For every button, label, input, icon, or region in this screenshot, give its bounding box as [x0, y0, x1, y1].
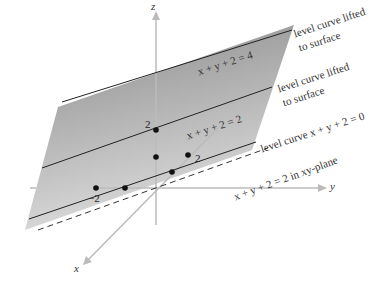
point	[153, 154, 159, 160]
point	[185, 152, 191, 158]
point	[93, 185, 99, 191]
y-tick-neg2: −2	[88, 192, 100, 204]
z-tick-2: 2	[145, 118, 151, 130]
point	[122, 185, 128, 191]
x-axis-label: x	[74, 262, 79, 274]
y-arrow-icon	[318, 184, 327, 192]
z-arrow-icon	[152, 11, 160, 20]
point	[153, 127, 159, 133]
y-axis-label: y	[330, 180, 335, 192]
z-axis-label: z	[151, 0, 155, 12]
tilted-plane	[25, 25, 294, 230]
point	[169, 169, 175, 175]
y-tick-2: 2	[195, 152, 201, 164]
